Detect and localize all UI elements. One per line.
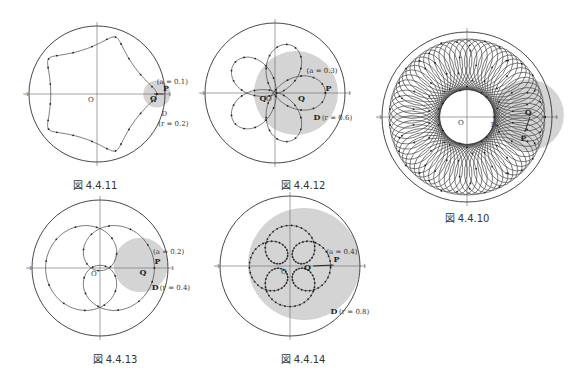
sample-point — [491, 166, 493, 168]
sample-point — [498, 101, 500, 103]
sample-point — [293, 271, 295, 273]
sample-point — [469, 44, 471, 46]
sample-point — [459, 57, 461, 59]
sample-point — [469, 50, 471, 52]
r-value-label: (r = 0.2) — [158, 120, 189, 128]
disk-D-label: D — [491, 121, 497, 129]
sample-point — [446, 73, 448, 75]
sample-point — [262, 242, 264, 244]
sample-point — [264, 282, 266, 284]
tick-neg-one: -1 — [200, 90, 205, 96]
sample-point — [277, 289, 279, 291]
sample-point — [97, 270, 99, 272]
sample-point — [466, 86, 468, 88]
sample-point — [438, 124, 440, 126]
sample-point — [317, 287, 319, 289]
sample-point — [92, 266, 94, 268]
sample-point — [324, 281, 326, 283]
sample-point — [442, 130, 444, 132]
sample-point — [266, 241, 268, 243]
sample-point — [283, 95, 285, 97]
sample-point — [507, 173, 509, 175]
tick-neg-one: -1 — [215, 263, 220, 269]
sample-point — [269, 290, 271, 292]
sample-point — [300, 128, 302, 130]
sample-point — [389, 124, 391, 126]
sample-point — [286, 273, 288, 275]
sample-point — [254, 58, 256, 60]
tick-one: 1 — [555, 114, 558, 120]
sample-point — [241, 89, 243, 91]
sample-point — [265, 65, 267, 67]
sample-point — [72, 52, 74, 54]
caption-fig-4-4-12: 図 4.4.12 — [281, 177, 326, 192]
sample-point — [103, 304, 105, 306]
sample-point — [469, 182, 471, 184]
sample-point — [293, 259, 295, 261]
sample-point — [243, 128, 245, 130]
sample-point — [526, 104, 528, 106]
sample-point — [428, 180, 430, 182]
point-Q: Q — [298, 93, 305, 103]
sample-point — [401, 97, 403, 99]
sample-point — [272, 231, 274, 233]
sample-point — [527, 92, 529, 94]
sample-point — [47, 67, 49, 69]
point-Q: Q — [150, 93, 157, 103]
sample-point — [313, 108, 315, 110]
a-value-label: (a = 0.3) — [307, 67, 338, 75]
sample-point — [428, 137, 430, 139]
sample-point — [311, 257, 313, 259]
sample-point — [286, 249, 288, 251]
sample-point — [511, 92, 513, 94]
sample-point — [273, 107, 275, 109]
sample-point — [534, 90, 536, 92]
sample-point — [312, 291, 314, 293]
sample-point — [512, 110, 514, 112]
sample-point — [313, 77, 315, 79]
sample-point — [252, 252, 254, 254]
sample-point — [277, 267, 279, 269]
sample-point — [275, 95, 277, 97]
sample-point — [398, 137, 400, 139]
sample-point — [249, 262, 251, 264]
point-P: P — [325, 83, 331, 93]
sample-point — [269, 234, 271, 236]
sample-point — [284, 246, 286, 248]
sample-point — [481, 141, 483, 143]
sample-point — [314, 286, 316, 288]
sample-point — [298, 242, 300, 244]
sample-point — [284, 285, 286, 287]
sample-point — [428, 122, 430, 124]
sample-point — [507, 60, 509, 62]
sample-point — [85, 292, 87, 294]
sample-point — [298, 268, 300, 270]
sample-point — [302, 241, 304, 243]
sample-point — [235, 61, 237, 63]
sample-point — [544, 116, 546, 118]
sample-point — [405, 165, 407, 167]
sample-point — [271, 269, 273, 271]
sample-point — [284, 260, 286, 262]
point-Q: Q — [525, 107, 532, 117]
sample-point — [295, 245, 297, 247]
sample-point — [151, 86, 153, 88]
a-value-label: (a = 0.1) — [157, 78, 188, 86]
sample-point — [440, 42, 442, 44]
sample-point — [265, 119, 267, 121]
sample-point — [491, 67, 493, 69]
sample-point — [72, 134, 74, 136]
sample-point — [265, 289, 267, 291]
sample-point — [273, 262, 275, 264]
sample-point — [287, 279, 289, 281]
sample-point — [300, 263, 302, 265]
sample-point — [276, 228, 278, 230]
sample-point — [261, 287, 263, 289]
sample-point — [279, 304, 281, 306]
sample-point — [283, 90, 285, 92]
sample-point — [295, 47, 297, 49]
sample-point — [96, 226, 98, 228]
sample-point — [75, 226, 77, 228]
sample-point — [91, 46, 93, 48]
sample-point — [265, 278, 267, 280]
